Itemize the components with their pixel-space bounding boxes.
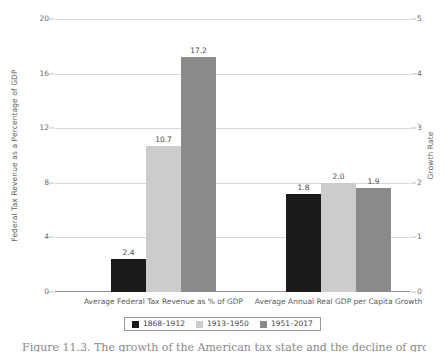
left-axis-tick-label: 12 [39, 124, 49, 132]
left-axis-tick-mark [49, 292, 54, 293]
left-axis-tick-mark [49, 128, 54, 129]
left-axis-tick-mark [49, 237, 54, 238]
left-axis-tick-mark [49, 182, 54, 183]
right-axis-tick-mark [411, 292, 416, 293]
bar: 1.9 [356, 188, 391, 292]
left-axis-tick-label: 20 [39, 15, 49, 23]
gridline [55, 74, 410, 75]
plot-area: 2016128405432102.410.717.21.82.01.9 [55, 19, 410, 292]
legend-label: 1913–1950 [207, 320, 249, 328]
bar-value-label: 10.7 [146, 136, 181, 144]
legend-item: 1868–1912 [132, 320, 185, 328]
left-axis-tick-mark [49, 73, 54, 74]
left-axis-tick-label: 0 [44, 288, 49, 296]
left-axis-tick-label: 16 [39, 70, 49, 78]
right-axis-tick-label: 4 [417, 70, 422, 78]
category-label: Average Annual Real GDP per Capita Growt… [239, 297, 439, 306]
right-axis-tick-mark [411, 128, 416, 129]
right-axis-tick-label: 1 [417, 234, 422, 242]
figure-caption: Figure 11.3. The growth of the American … [22, 341, 426, 352]
left-axis-title: Federal Tax Revenue as a Percentage of G… [8, 19, 20, 292]
category-label: Average Federal Tax Revenue as % of GDP [64, 297, 264, 306]
bar-value-label: 2.0 [321, 173, 356, 181]
figure-container: Federal Tax Revenue as a Percentage of G… [0, 0, 447, 352]
bar: 2.4 [111, 259, 146, 292]
right-axis-tick-label: 5 [417, 15, 422, 23]
bar: 10.7 [146, 146, 181, 292]
bar: 17.2 [181, 57, 216, 292]
right-axis-tick-mark [411, 73, 416, 74]
gridline [55, 128, 410, 129]
bar: 2.0 [321, 183, 356, 292]
bar-value-label: 1.9 [356, 178, 391, 186]
right-axis-tick-label: 2 [417, 179, 422, 187]
right-axis-title-text: Growth Rate [427, 132, 436, 180]
right-axis-tick-label: 0 [417, 288, 422, 296]
left-axis-tick-mark [49, 19, 54, 20]
bar: 1.8 [286, 194, 321, 292]
legend-label: 1951–2017 [271, 320, 313, 328]
legend-swatch-icon [196, 321, 203, 328]
legend-item: 1913–1950 [196, 320, 249, 328]
legend-label: 1868–1912 [143, 320, 185, 328]
left-axis-tick-label: 4 [44, 234, 49, 242]
right-axis-tick-mark [411, 182, 416, 183]
bar-value-label: 2.4 [111, 249, 146, 257]
bar-value-label: 1.8 [286, 184, 321, 192]
right-axis-tick-mark [411, 19, 416, 20]
left-axis-tick-label: 8 [44, 179, 49, 187]
chart-legend: 1868–19121913–19501951–2017 [124, 317, 321, 331]
legend-swatch-icon [132, 321, 139, 328]
left-axis-title-text: Federal Tax Revenue as a Percentage of G… [10, 69, 19, 241]
legend-swatch-icon [260, 321, 267, 328]
right-axis-tick-mark [411, 237, 416, 238]
bar-value-label: 17.2 [181, 47, 216, 55]
right-axis-tick-label: 3 [417, 124, 422, 132]
legend-item: 1951–2017 [260, 320, 313, 328]
gridline [55, 19, 410, 20]
right-axis-title: Growth Rate [425, 19, 437, 292]
